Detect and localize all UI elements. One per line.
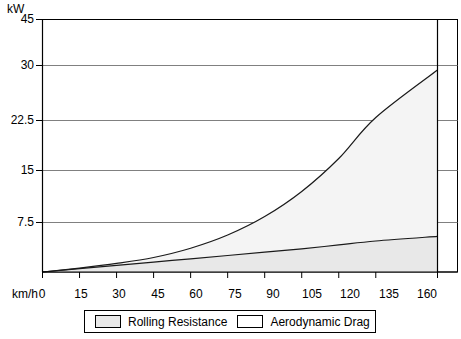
legend-label-aerodynamic-drag: Aerodynamic Drag (270, 316, 369, 328)
x-tick-label-60: 60 (181, 288, 211, 300)
x-tick-label-160: 160 (412, 288, 442, 300)
legend-item-aerodynamic-drag: Aerodynamic Drag (227, 311, 369, 332)
chart-legend: Rolling Resistance Aerodynamic Drag (84, 310, 376, 333)
legend-swatch-aerodynamic-drag (237, 315, 263, 328)
power-vs-speed-chart: kW 45 30 22.5 15 7.5 km/h 0 15 (0, 0, 461, 339)
x-tick-label-135: 135 (374, 288, 404, 300)
x-tick-label-75: 75 (220, 288, 250, 300)
x-axis-ticks (43, 272, 438, 278)
legend-label-rolling-resistance: Rolling Resistance (128, 316, 227, 328)
x-tick-label-30: 30 (104, 288, 134, 300)
x-tick-label-0: 0 (27, 288, 57, 300)
x-tick-label-15: 15 (66, 288, 96, 300)
x-tick-label-105: 105 (297, 288, 327, 300)
x-tick-label-90: 90 (258, 288, 288, 300)
x-tick-label-120: 120 (335, 288, 365, 300)
legend-swatch-rolling-resistance (95, 315, 121, 328)
legend-item-rolling-resistance: Rolling Resistance (85, 311, 227, 332)
x-tick-label-45: 45 (143, 288, 173, 300)
